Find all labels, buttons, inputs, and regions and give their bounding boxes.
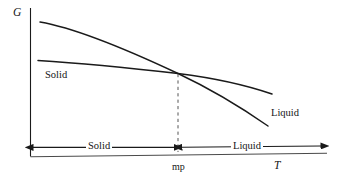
solid-region-label: Solid	[86, 141, 112, 152]
melting-point-label: mp	[172, 162, 185, 172]
liquid-region-label: Liquid	[231, 141, 263, 152]
free-energy-diagram: G T Solid Liquid Solid Liquid mp	[0, 0, 337, 179]
liquid-phase-curve	[40, 22, 268, 126]
solid-phase-curve	[38, 61, 272, 95]
x-axis-label: T	[274, 160, 280, 172]
diagram-canvas	[0, 0, 337, 179]
x-axis-line	[31, 153, 328, 157]
solid-curve-label: Solid	[45, 70, 67, 81]
y-axis-label: G	[13, 7, 21, 19]
liquid-curve-label: Liquid	[271, 108, 299, 119]
